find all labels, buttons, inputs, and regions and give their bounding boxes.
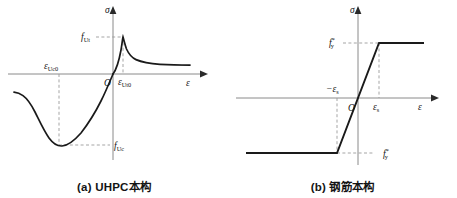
svg-text:−εs: −εs	[326, 84, 339, 95]
uhpc-x-axis-label: ε	[186, 78, 190, 88]
rebar-panel-caption: (b) 钢筋本构	[228, 178, 457, 194]
rebar-y-axis	[355, 6, 362, 165]
rebar-y-axis-label: σ	[350, 5, 355, 15]
rebar-x-axis	[236, 95, 439, 102]
rebar-es-neg-symbol: −ε	[326, 84, 336, 94]
rebar-yield-strength-positive-label: f*y	[329, 36, 335, 49]
rebar-x-axis-label: ε	[418, 102, 422, 112]
uhpc-ft-subscript: Ut	[84, 36, 91, 43]
uhpc-origin-label: O	[104, 78, 111, 88]
uhpc-et-subscript: Ut0	[122, 81, 131, 88]
svg-text:εUc0: εUc0	[44, 61, 58, 72]
uhpc-y-axis-label: σ	[105, 5, 110, 15]
uhpc-compression-curve	[14, 74, 113, 146]
rebar-stress-strain-plot: O ε σ f*y f*y εs −εs	[228, 0, 457, 172]
rebar-es-pos-subscript: s	[377, 106, 380, 113]
svg-text:f*y: f*y	[383, 147, 389, 160]
uhpc-compressive-strength-label: fUc	[114, 141, 124, 152]
uhpc-tensile-strength-label: fUt	[81, 32, 90, 43]
rebar-yield-strength-negative-label: f*y	[383, 147, 389, 160]
figure-panel-uhpc: O ε σ fUt fUc εUt0 εUc0	[0, 0, 228, 198]
svg-text:εUt0: εUt0	[118, 77, 131, 88]
rebar-origin-label: O	[348, 103, 355, 113]
rebar-es-neg-subscript: s	[336, 88, 339, 95]
svg-text:εs: εs	[373, 102, 380, 113]
figure-panel-rebar: O ε σ f*y f*y εs −εs	[228, 0, 457, 198]
rebar-yield-strain-positive-label: εs	[373, 102, 380, 113]
uhpc-ec-subscript: Uc0	[48, 65, 59, 72]
uhpc-tension-curve	[113, 37, 190, 74]
svg-text:fUc: fUc	[114, 141, 124, 152]
figure-container: O ε σ fUt fUc εUt0 εUc0	[0, 0, 457, 198]
uhpc-stress-strain-plot: O ε σ fUt fUc εUt0 εUc0	[0, 0, 228, 172]
svg-text:f*y: f*y	[329, 36, 335, 49]
uhpc-panel-caption: (a) UHPC本构	[0, 178, 228, 194]
rebar-yield-strain-negative-label: −εs	[326, 84, 339, 95]
uhpc-tensile-strain-label: εUt0	[118, 77, 131, 88]
uhpc-compressive-strain-label: εUc0	[44, 61, 58, 72]
uhpc-fc-subscript: Uc	[117, 145, 125, 152]
uhpc-x-axis	[8, 71, 208, 78]
svg-text:fUt: fUt	[81, 32, 90, 43]
